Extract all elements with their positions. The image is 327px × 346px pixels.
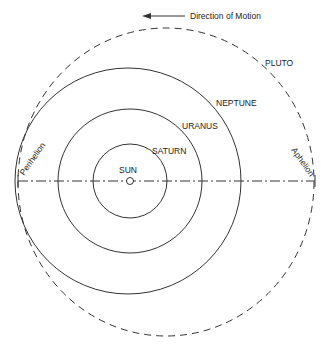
direction-arrow-icon <box>142 13 185 19</box>
pluto-label: PLUTO <box>265 58 294 68</box>
sun-icon <box>127 178 134 185</box>
orbit-diagram: Direction of Motion SUN SATURN URANUS NE… <box>0 0 327 346</box>
uranus-label: URANUS <box>182 121 218 131</box>
direction-label: Direction of Motion <box>190 11 261 21</box>
saturn-label: SATURN <box>152 146 186 156</box>
neptune-label: NEPTUNE <box>216 98 257 108</box>
sun-label: SUN <box>119 165 137 175</box>
